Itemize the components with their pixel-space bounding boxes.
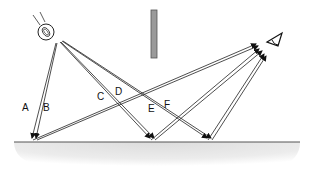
ray-label-c: C <box>97 92 104 102</box>
ray-EF-out-2 <box>212 56 266 140</box>
ray-label-d: D <box>115 87 122 97</box>
ray-diagram: ABCDEF <box>0 0 314 173</box>
occluder-panel <box>151 10 157 58</box>
ray-A-in <box>32 43 56 138</box>
lightbulb-icon <box>33 12 54 40</box>
ray-label-f: F <box>164 100 170 110</box>
eye-icon <box>267 33 282 46</box>
ray-EF-out-1 <box>208 54 264 140</box>
ray-AB-out-1 <box>33 44 256 140</box>
ray-E-in <box>62 41 207 138</box>
ray-label-e: E <box>148 104 155 114</box>
ray-AB-out-2 <box>37 46 258 140</box>
ray-F-in <box>63 41 211 138</box>
ray-CD-out-1 <box>151 49 259 140</box>
diagram-canvas <box>0 0 314 173</box>
ray-label-b: B <box>43 103 50 113</box>
ray-label-a: A <box>22 103 29 113</box>
light-rays <box>32 41 266 140</box>
ray-B-in <box>36 43 57 138</box>
ground-surface <box>14 142 300 172</box>
ray-C-in <box>60 42 150 138</box>
